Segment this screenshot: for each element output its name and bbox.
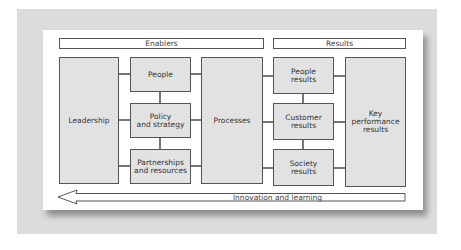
connector-society-results-kpr [333,167,345,169]
connector-customer-results-kpr [333,121,345,123]
leadership-box: Leadership [59,57,119,184]
enablers-header: Enablers [59,38,264,49]
results-header: Results [273,38,406,49]
connector-leadership-people [118,73,130,75]
connector-policy-partnerships [159,137,161,149]
processes-box: Processes [201,57,263,184]
connector-leadership-policy [118,119,130,121]
people-box: People [130,57,191,92]
people-results-box: People results [273,57,334,94]
connector-people-customer-results [302,93,304,103]
partnerships-resources-box: Partnerships and resources [130,149,191,184]
policy-strategy-box: Policy and strategy [130,103,191,138]
connector-leadership-partnerships [118,165,130,167]
society-results-box: Society results [273,149,334,186]
key-performance-results-box: Key performance results [345,57,406,187]
connector-people-results-kpr [333,75,345,77]
customer-results-box: Customer results [273,103,334,140]
connector-people-policy [159,91,161,103]
connector-customer-society-results [302,139,304,149]
innovation-learning-label: Innovation and learning [150,192,405,202]
